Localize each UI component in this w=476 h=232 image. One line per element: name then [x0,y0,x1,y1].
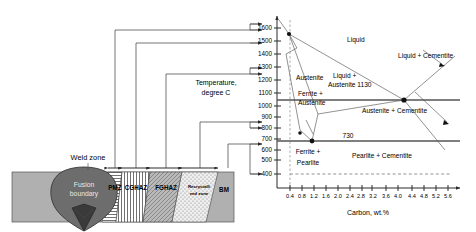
fusion-boundary-label-2: boundary [70,190,99,198]
x-tick-label: 1.6 [322,193,330,199]
y-tick-label: 1400 [258,50,273,57]
region-label-liquid: Liquid [347,36,365,44]
y-tick-label: 800 [261,124,272,131]
region-label-liquid-austenite-2: Austenite 1130 [328,81,372,88]
x-tick-label: 4.8 [420,193,428,199]
temperature-axis-title-line1: Temperature, [195,79,236,87]
zone-label-recrystallized-2: zed zone [190,191,209,196]
x-tick-label: 2.4 [346,193,354,199]
liquidus-hypereutectic [404,56,455,100]
x-tick-label: 5.2 [432,193,440,199]
figure-canvas: Weld zone pmz Fusion boundary [0,0,476,232]
temperature-axis-title-line2: degree C [202,89,231,97]
y-tick-label: 1100 [258,89,272,96]
x-tick-label: 1.2 [310,193,318,199]
region-label-ferrite-pearlite-2: Pearlite [297,159,320,166]
y-tick-group: 400 500 600 700 800 900 1000 1100 1200 1… [258,24,281,177]
point-peritectic [287,32,291,36]
region-label-austenite: Austenite [296,74,324,81]
zone-label-pmz: PMZ [108,184,121,191]
x-tick-label: 0.8 [298,193,306,199]
y-tick-label: 1500 [258,37,273,44]
zone-label-bm: BM [219,186,229,193]
liquid-cementite-leader-head [439,63,445,67]
x-tick-label: 2.8 [357,193,365,199]
y-tick-label: 1000 [258,102,273,109]
x-axis-ticks: 0.4 0.8 1.2 1.6 2.0 2.4 2.8 3.2 3.6 4.0 … [286,185,452,199]
y-tick-label: 500 [261,156,272,163]
zone-label-fghaz: FGHAZ [155,184,177,191]
x-tick-label: 3.2 [369,193,377,199]
point-eutectic [401,97,406,102]
zone-to-temperature-connectors [115,24,262,174]
ferrite-austenite-leader [306,120,313,134]
region-label-liquid-austenite: Liquid + [333,72,356,80]
a3-line [312,114,318,141]
y-axis-ticks: 400 500 600 700 800 900 1000 1100 1200 1… [258,24,281,177]
region-label-austenite-cementite: Austenite + Cementite [362,107,427,114]
x-tick-label: 4.0 [394,193,402,199]
x-tick-label: 3.6 [382,193,390,199]
y-tick-label: 1600 [258,24,273,31]
weld-zone-label: Weld zone [71,153,106,162]
region-label-pearlite-cementite: Pearlite + Cementite [352,152,412,159]
x-axis-title: Carbon, wt.% [347,209,389,216]
x-tick-label: 5.6 [444,193,452,199]
y-tick-label: 1300 [258,63,273,70]
y-tick-label: 600 [261,146,272,153]
y-tick-label: 700 [261,135,272,142]
fusion-boundary-label: Fusion [74,181,95,188]
eutectoid-temperature-label: 730 [342,132,353,139]
point-eutectoid [310,139,315,144]
weld-phase-diagram-figure: Weld zone pmz Fusion boundary [0,0,476,232]
x-tick-label: 2.0 [334,193,342,199]
y-tick-label: 900 [261,113,272,120]
y-tick-label: 1200 [258,76,273,83]
region-label-ferrite-pearlite: Ferrite + [296,148,321,155]
x-tick-label: 0.4 [286,193,294,199]
y-tick-label: 400 [261,170,272,177]
region-label-liquid-cementite: Liquid + Cementite [398,52,453,60]
zone-label-recrystallized: Recrystalli [188,184,210,189]
x-tick-label: 4.4 [408,193,416,199]
zone-label-cghaz: CGHAZ [125,184,148,191]
region-label-ferrite-austenite: Ferrite + [298,90,323,97]
region-label-ferrite-austenite-2: Austenite [298,99,326,106]
point-ferrite-max [298,131,302,135]
